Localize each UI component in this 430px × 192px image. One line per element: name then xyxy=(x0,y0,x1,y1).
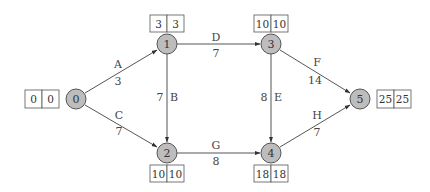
time-box-node-2: 10 10 xyxy=(150,165,184,182)
node-5-latest: 25 xyxy=(396,93,409,105)
edge-a-duration: 3 xyxy=(115,75,122,88)
edge-g-activity: G xyxy=(212,139,221,152)
edge-e: 8 E xyxy=(261,54,283,142)
edge-f-activity: F xyxy=(313,56,321,69)
node-3-earliest: 10 xyxy=(256,18,269,30)
edge-e-duration: 8 xyxy=(261,91,268,104)
node-2: 2 xyxy=(157,143,177,163)
node-0-label: 0 xyxy=(73,93,80,106)
edges: A 3 C 7 7 B D 7 G 8 8 E xyxy=(85,31,350,168)
edge-a: A 3 xyxy=(85,50,157,93)
node-4-latest: 18 xyxy=(273,168,286,180)
edge-d-duration: 7 xyxy=(213,47,220,60)
edge-a-activity: A xyxy=(113,58,123,71)
node-4-earliest: 18 xyxy=(256,168,269,180)
edge-h-duration: 7 xyxy=(314,126,321,139)
edge-b: 7 B xyxy=(157,54,179,142)
edge-f-duration: 14 xyxy=(308,74,322,87)
node-5-label: 5 xyxy=(357,93,364,106)
edge-c-duration: 7 xyxy=(116,125,123,138)
edge-d-activity: D xyxy=(212,31,221,44)
node-1-earliest: 3 xyxy=(155,18,162,30)
node-0-latest: 0 xyxy=(47,93,54,105)
time-box-node-1: 3 3 xyxy=(150,15,184,32)
node-1: 1 xyxy=(157,34,177,54)
edge-h: H 7 xyxy=(280,105,350,147)
node-4: 4 xyxy=(261,143,281,163)
edge-g-duration: 8 xyxy=(213,155,220,168)
node-4-label: 4 xyxy=(268,147,275,160)
time-box-node-4: 18 18 xyxy=(254,165,288,182)
node-0: 0 xyxy=(66,89,86,109)
time-box-node-5: 25 25 xyxy=(377,90,411,108)
node-5: 5 xyxy=(350,89,370,109)
edge-f: F 14 xyxy=(280,50,350,93)
edge-c-activity: C xyxy=(115,109,123,122)
node-3-label: 3 xyxy=(268,38,275,51)
time-box-node-0: 0 0 xyxy=(25,90,59,108)
time-box-node-3: 10 10 xyxy=(254,15,288,32)
node-2-earliest: 10 xyxy=(152,168,165,180)
node-3: 3 xyxy=(261,34,281,54)
edge-b-duration: 7 xyxy=(157,91,164,104)
node-2-label: 2 xyxy=(164,147,171,160)
edge-d: D 7 xyxy=(177,31,260,60)
node-2-latest: 10 xyxy=(169,168,182,180)
network-diagram: A 3 C 7 7 B D 7 G 8 8 E xyxy=(0,0,430,192)
node-0-earliest: 0 xyxy=(30,93,37,105)
edge-g: G 8 xyxy=(177,139,260,168)
node-1-latest: 3 xyxy=(172,18,179,30)
edge-b-activity: B xyxy=(170,91,178,104)
edge-h-activity: H xyxy=(312,109,322,122)
edge-e-activity: E xyxy=(274,91,282,104)
node-3-latest: 10 xyxy=(273,18,286,30)
edge-c: C 7 xyxy=(85,105,157,147)
node-1-label: 1 xyxy=(164,38,171,51)
node-5-earliest: 25 xyxy=(379,93,392,105)
